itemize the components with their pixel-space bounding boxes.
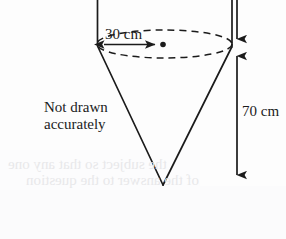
note-line-1: Not drawn bbox=[44, 99, 108, 116]
radius-label: 30 cm bbox=[105, 26, 142, 43]
cone-diagram: the subject so that any one of the answe… bbox=[0, 0, 286, 239]
note-line-2: accurately bbox=[44, 116, 108, 133]
not-drawn-accurately-note: Not drawn accurately bbox=[44, 99, 108, 133]
cone-centre-dot bbox=[160, 42, 166, 48]
height-label: 70 cm bbox=[242, 103, 279, 120]
